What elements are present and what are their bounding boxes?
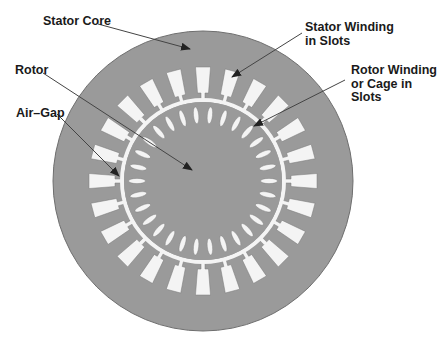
label-rotor-winding: Rotor Winding or Cage in Slots xyxy=(351,64,437,105)
rotor-core xyxy=(124,102,282,260)
label-rotor: Rotor xyxy=(15,64,48,78)
rotor-slot xyxy=(261,178,278,183)
label-text: or Cage in xyxy=(351,78,437,92)
label-air-gap: Air–Gap xyxy=(16,107,65,121)
label-text: Stator Core xyxy=(43,15,111,29)
label-text: in Slots xyxy=(305,35,394,49)
label-text: Rotor xyxy=(15,64,48,78)
label-stator-core: Stator Core xyxy=(43,15,111,29)
label-text: Air–Gap xyxy=(16,107,65,121)
label-text: Rotor Winding xyxy=(351,64,437,78)
label-text: Slots xyxy=(351,91,437,105)
label-text: Stator Winding xyxy=(305,21,394,35)
label-stator-winding: Stator Winding in Slots xyxy=(305,21,394,48)
rotor-slot xyxy=(129,178,146,183)
